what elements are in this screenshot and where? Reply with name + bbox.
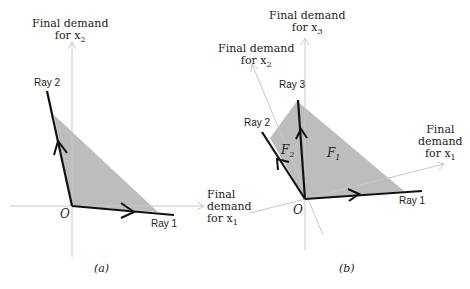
axis-x1-label-a: Final demand for x1 [207, 189, 252, 229]
axis-x1-label-b-sub: 1 [451, 153, 456, 162]
axis-x1-label-a-line3: for x1 [207, 213, 252, 229]
axis-x2-label-a: Final demand for x2 [32, 18, 108, 46]
axis-x3-label-b-sub: 3 [318, 27, 323, 36]
caption-a: (a) [94, 262, 109, 275]
axis-x2-label-b-text: for x [241, 54, 267, 67]
origin-label-b: O [293, 203, 303, 217]
axis-x2-label-b-line2: for x2 [218, 55, 294, 71]
axis-x2-label-a-sub: 2 [81, 35, 86, 44]
ray2-label-a: Ray 2 [34, 77, 60, 88]
face1-label-b: F1 [327, 146, 340, 162]
origin-label-a: O [60, 207, 70, 221]
axis-x1-label-b: Final demand for x1 [418, 124, 463, 164]
axis-x2-label-b: Final demand for x2 [218, 43, 294, 71]
axis-x1-label-a-text: for x [207, 212, 233, 225]
ray1-label-a: Ray 1 [151, 218, 177, 229]
axis-x1-label-b-line3: for x1 [418, 148, 463, 164]
ray2-label-b: Ray 2 [244, 117, 270, 128]
axis-x3-label-b-text: for x [292, 21, 318, 34]
ray1-label-b: Ray 1 [399, 195, 425, 206]
axis-x1-label-a-sub: 1 [233, 218, 238, 227]
face1-label-sub: 1 [335, 153, 340, 162]
face2-label-b: F2 [281, 143, 294, 159]
axis-x3-label-b: Final demand for x3 [269, 10, 345, 38]
axis-x2-label-b-sub: 2 [267, 60, 272, 69]
axis-x2-label-a-text: for x [55, 29, 81, 42]
face2-label-sub: 2 [289, 150, 294, 159]
axis-x2-label-a-line2: for x2 [32, 30, 108, 46]
axis-x1-label-b-text: for x [425, 147, 451, 160]
ray3-label-b: Ray 3 [279, 79, 305, 90]
caption-b: (b) [339, 262, 355, 275]
axis-x3-label-b-line2: for x3 [269, 22, 345, 38]
